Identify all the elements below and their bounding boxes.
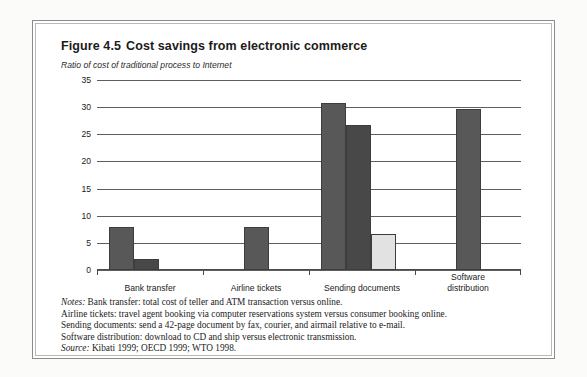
figure-page: Figure 4.5Cost savings from electronic c…	[0, 0, 587, 377]
bar	[244, 227, 269, 270]
axis-tick-left	[97, 269, 98, 275]
figure-notes: Notes: Bank transfer: total cost of tell…	[61, 297, 481, 355]
x-axis-category-label: Bank transfer	[124, 283, 175, 294]
y-axis-tick-label: 30	[81, 102, 91, 112]
bar	[321, 103, 346, 270]
bar	[134, 259, 159, 270]
notes-line-2: Airline tickets: travel agent booking vi…	[61, 309, 481, 321]
bar-chart: 05101520253035 Bank transferAirline tick…	[61, 80, 521, 292]
x-axis-category-label: Software distribution	[442, 272, 495, 294]
x-axis-separator-tick	[203, 269, 204, 275]
axis-tick-right	[520, 269, 521, 275]
notes-line-1: Notes: Bank transfer: total cost of tell…	[61, 297, 481, 309]
notes-line-3: Sending documents: send a 42-page docume…	[61, 320, 481, 332]
y-axis-tick-label: 35	[81, 75, 91, 85]
bar	[371, 234, 396, 270]
y-axis-tick-label: 20	[81, 156, 91, 166]
x-axis-separator-tick	[415, 269, 416, 275]
figure-frame: Figure 4.5Cost savings from electronic c…	[32, 20, 555, 359]
notes-line-4: Software distribution: download to CD an…	[61, 332, 481, 344]
figure-number: Figure 4.5	[61, 39, 121, 53]
x-axis-separator-tick	[309, 269, 310, 275]
figure-title: Figure 4.5Cost savings from electronic c…	[61, 39, 367, 53]
bar	[109, 227, 134, 270]
bar	[346, 125, 371, 270]
y-axis-tick-label: 10	[81, 211, 91, 221]
notes-line-1-text: Bank transfer: total cost of teller and …	[85, 297, 342, 307]
figure-title-text: Cost savings from electronic commerce	[126, 39, 367, 53]
source-line: Source: Kibati 1999; OECD 1999; WTO 1998…	[61, 343, 481, 355]
y-axis-tick-label: 5	[86, 238, 91, 248]
y-axis-tick-label: 25	[81, 129, 91, 139]
bar	[456, 109, 481, 270]
figure-inner: Figure 4.5Cost savings from electronic c…	[37, 25, 550, 354]
source-label: Source:	[61, 343, 90, 353]
y-axis-tick-label: 15	[81, 184, 91, 194]
y-axis-tick-label: 0	[86, 265, 91, 275]
notes-label: Notes:	[61, 297, 85, 307]
x-axis-category-label: Sending documents	[324, 283, 400, 294]
figure-subtitle: Ratio of cost of traditional process to …	[61, 60, 232, 70]
source-text: Kibati 1999; OECD 1999; WTO 1998.	[90, 343, 237, 353]
gridline-35	[97, 80, 521, 81]
x-axis-category-label: Airline tickets	[231, 283, 282, 294]
